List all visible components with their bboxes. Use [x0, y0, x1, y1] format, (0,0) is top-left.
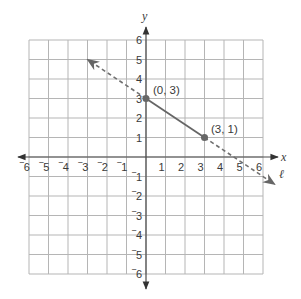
- x-tick-label: ‾3: [78, 161, 89, 173]
- x-tick-label: 4: [217, 161, 223, 173]
- y-tick-label: 4: [136, 73, 142, 85]
- y-axis-label: y: [141, 9, 148, 23]
- x-axis-label: x: [280, 150, 287, 164]
- x-tick-label: 6: [256, 161, 262, 173]
- y-tick-label: 6: [136, 34, 142, 46]
- point-0-3: [143, 95, 150, 102]
- x-tick-label: ‾4: [58, 161, 69, 173]
- point-label-3-1: (3, 1): [211, 123, 238, 135]
- y-tick-label: ‾1: [131, 171, 142, 183]
- x-tick-label: 2: [178, 161, 184, 173]
- x-tick-label: 3: [197, 161, 203, 173]
- x-tick-label: 1: [158, 161, 164, 173]
- y-tick-label: ‾4: [131, 229, 142, 241]
- y-tick-label: ‾5: [131, 249, 142, 261]
- line-name-label: ℓ: [279, 167, 284, 181]
- y-tick-label: 2: [136, 112, 142, 124]
- point-3-1: [201, 134, 208, 141]
- x-tick-label: ‾2: [97, 161, 108, 173]
- y-tick-label: ‾3: [131, 210, 142, 222]
- x-tick-label: ‾1: [117, 161, 128, 173]
- line-extension-lower-right: [205, 138, 275, 185]
- x-tick-label: ‾5: [39, 161, 50, 173]
- y-tick-label: ‾2: [131, 190, 142, 202]
- y-tick-label: 1: [136, 132, 142, 144]
- point-label-0-3: (0, 3): [153, 84, 180, 96]
- coordinate-plane: x y ‾6‾5‾4‾3‾2‾1123456 654321‾1‾2‾3‾4‾5‾…: [0, 0, 301, 299]
- y-tick-label: ‾6: [131, 268, 142, 280]
- x-tick-label: ‾6: [19, 161, 30, 173]
- y-tick-label: 5: [136, 54, 142, 66]
